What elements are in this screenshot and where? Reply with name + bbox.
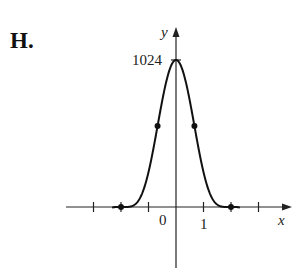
marked-point: [191, 123, 197, 129]
x-axis-label: x: [277, 212, 285, 228]
marked-point: [228, 204, 234, 210]
function-graph: 0 1 1024 x y: [0, 0, 293, 278]
x-tick-label-0: 0: [159, 212, 167, 228]
y-axis-label: y: [159, 24, 168, 40]
y-axis-arrow-icon: [173, 27, 180, 37]
x-axis-arrow-icon: [282, 204, 292, 211]
y-tick-label-1024: 1024: [132, 52, 163, 68]
marked-point: [155, 123, 161, 129]
marked-point: [118, 204, 124, 210]
x-tick-label-1: 1: [200, 216, 208, 232]
